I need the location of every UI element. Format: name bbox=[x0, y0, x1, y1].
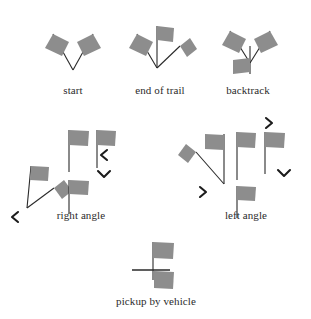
caption-right-angle: right angle bbox=[36, 209, 126, 221]
arrow-chevron-down-c bbox=[276, 167, 292, 179]
flag-center bbox=[157, 26, 174, 68]
arrow-chevron-left-a bbox=[8, 210, 22, 224]
flag-left bbox=[129, 34, 157, 68]
diagram-canvas: start end of trail bbox=[0, 0, 311, 319]
caption-start: start bbox=[33, 84, 113, 96]
caption-pickup-by-vehicle: pickup by vehicle bbox=[94, 295, 218, 307]
flag-vertical bbox=[27, 166, 49, 208]
flag-bottom bbox=[154, 271, 174, 289]
symbol-left-angle-a bbox=[176, 128, 240, 190]
flag-right bbox=[73, 34, 101, 70]
flag-pole-top-left bbox=[237, 132, 256, 180]
flag-vertical bbox=[205, 134, 224, 184]
caption-end-of-trail: end of trail bbox=[113, 84, 207, 96]
arrow-chevron-left-b bbox=[97, 148, 111, 162]
symbol-backtrack bbox=[212, 18, 292, 80]
flag-diagonal bbox=[178, 144, 224, 184]
symbol-end-of-trail bbox=[120, 16, 200, 74]
arrow-chevron-right-a bbox=[196, 185, 210, 199]
caption-backtrack: backtrack bbox=[206, 84, 290, 96]
flag-left bbox=[45, 34, 73, 70]
flag-right bbox=[157, 38, 197, 68]
arrow-chevron-down-b bbox=[96, 168, 112, 180]
caption-left-angle: left angle bbox=[203, 209, 289, 221]
flag-left bbox=[222, 31, 250, 63]
arrow-chevron-right-b bbox=[262, 116, 276, 130]
symbol-start bbox=[36, 18, 110, 74]
symbol-pickup-by-vehicle bbox=[126, 240, 196, 294]
flag-right bbox=[250, 31, 278, 63]
flag-pole-top-left bbox=[69, 130, 89, 172]
